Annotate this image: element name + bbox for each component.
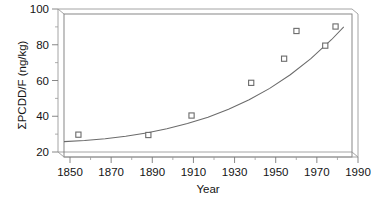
y-tick-label: 100 [30, 3, 49, 15]
data-point-marker [282, 56, 287, 61]
x-tick-label: 1850 [57, 166, 83, 178]
data-point-marker [323, 43, 328, 48]
x-tick-label: 1870 [98, 166, 124, 178]
data-point-marker [333, 24, 338, 29]
x-tick-label: 1950 [263, 166, 289, 178]
data-point-marker [249, 80, 254, 85]
data-point-marker [294, 28, 299, 33]
x-tick-label: 1910 [181, 166, 207, 178]
data-point-marker [146, 132, 151, 137]
y-axis-title: ΣPCDD/F (ng/kg) [16, 40, 28, 129]
y-tick-label: 80 [36, 39, 49, 51]
chart-figure: 20406080100 1850187018901910193019501970… [0, 0, 371, 198]
data-point-marker [189, 113, 194, 118]
x-tick-label: 1970 [304, 166, 330, 178]
scatter-chart: 20406080100 1850187018901910193019501970… [0, 0, 371, 198]
x-axis-title: Year [196, 183, 219, 195]
x-tick-label: 1890 [139, 166, 165, 178]
y-tick-label: 60 [36, 75, 49, 87]
x-tick-label: 1930 [222, 166, 248, 178]
y-tick-label: 20 [36, 146, 49, 158]
data-point-marker [76, 132, 81, 137]
x-tick-label: 1990 [345, 166, 371, 178]
y-tick-label: 40 [36, 110, 49, 122]
